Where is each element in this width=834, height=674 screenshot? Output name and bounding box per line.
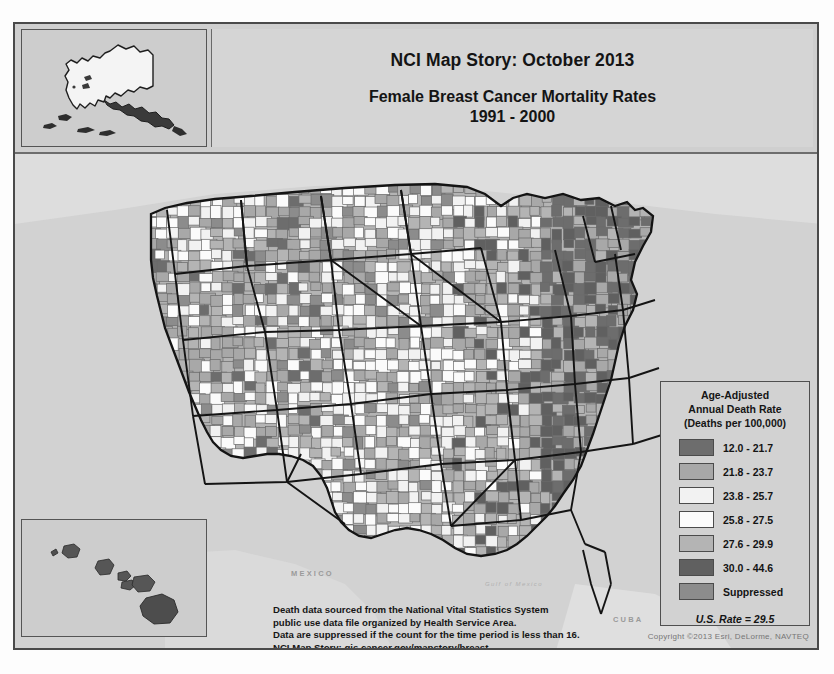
- legend-label: 12.0 - 21.7: [723, 442, 773, 454]
- legend-title-line-3: (Deaths per 100,000): [661, 417, 809, 431]
- page-subtitle: Female Breast Cancer Mortality Rates 199…: [369, 87, 656, 126]
- footnote-line-3: Data are suppressed if the count for the…: [273, 629, 580, 642]
- legend-row: 23.8 - 25.7: [679, 484, 809, 508]
- hawaii-shape: [22, 520, 206, 636]
- legend-label: 25.8 - 27.5: [723, 514, 773, 526]
- legend-swatch: [679, 487, 714, 504]
- gulf-of-mexico-label: Gulf of Mexico: [485, 581, 543, 587]
- footnote-line-1: Death data sourced from the National Vit…: [273, 604, 580, 617]
- legend-label: Suppressed: [723, 586, 783, 598]
- mexico-label: MEXICO: [291, 569, 334, 578]
- legend-label: 30.0 - 44.6: [723, 562, 773, 574]
- legend-title: Age-Adjusted Annual Death Rate (Deaths p…: [661, 389, 809, 431]
- legend-row: Suppressed: [679, 580, 809, 604]
- legend-label: 23.8 - 25.7: [723, 490, 773, 502]
- hawaii-inset-map: [21, 519, 207, 637]
- cuba-label: CUBA: [613, 615, 643, 624]
- subtitle-line-1: Female Breast Cancer Mortality Rates: [369, 87, 656, 107]
- legend-label: 21.8 - 23.7: [723, 466, 773, 478]
- footnote-line-4: NCI Map Story: gis.cancer.gov/mapstory/b…: [273, 642, 580, 648]
- title-panel: NCI Map Story: October 2013 Female Breas…: [211, 29, 813, 147]
- alaska-inset-map: [21, 29, 207, 147]
- legend-swatch: [679, 439, 714, 456]
- legend-swatch: [679, 535, 714, 552]
- legend-title-line-2: Annual Death Rate: [661, 403, 809, 417]
- poster-header: NCI Map Story: October 2013 Female Breas…: [15, 24, 817, 152]
- legend-row: 30.0 - 44.6: [679, 556, 809, 580]
- legend-swatch: [679, 463, 714, 480]
- legend-swatch: [679, 559, 714, 576]
- legend-swatch: [679, 583, 714, 600]
- main-map-canvas: MEXICO Gulf of Mexico CUBA Age-Adjusted …: [15, 154, 817, 648]
- legend-title-line-1: Age-Adjusted: [661, 389, 809, 403]
- footnote-line-2: public use data file organized by Health…: [273, 617, 580, 630]
- copyright-notice: Copyright ©2013 Esri, DeLorme, NAVTEQ: [648, 632, 809, 641]
- us-rate-label: U.S. Rate = 29.5: [661, 613, 809, 625]
- legend-row: 12.0 - 21.7: [679, 436, 809, 460]
- map-legend: Age-Adjusted Annual Death Rate (Deaths p…: [660, 381, 810, 626]
- map-poster: NCI Map Story: October 2013 Female Breas…: [13, 22, 819, 650]
- source-footnote: Death data sourced from the National Vit…: [273, 604, 580, 648]
- legend-row: 27.6 - 29.9: [679, 532, 809, 556]
- legend-row: 21.8 - 23.7: [679, 460, 809, 484]
- legend-label: 27.6 - 29.9: [723, 538, 773, 550]
- page-title: NCI Map Story: October 2013: [391, 50, 635, 71]
- legend-swatch: [679, 511, 714, 528]
- legend-row-list: 12.0 - 21.721.8 - 23.723.8 - 25.725.8 - …: [679, 436, 809, 604]
- alaska-shape: [22, 30, 206, 146]
- legend-row: 25.8 - 27.5: [679, 508, 809, 532]
- subtitle-line-2: 1991 - 2000: [369, 107, 656, 127]
